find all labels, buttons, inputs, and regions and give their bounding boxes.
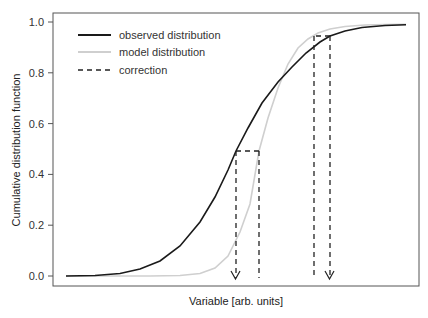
y-tick-label: 0.2 [29,219,44,231]
y-tick-label: 0.4 [29,168,44,180]
legend-label-correction: correction [119,64,167,76]
legend-label-observed: observed distribution [119,29,221,41]
correction-lines [236,36,330,278]
x-axis-label: Variable [arb. units] [189,295,283,307]
y-axis: 0.0 0.2 0.4 0.6 0.8 1.0 [29,16,53,282]
y-tick-label: 0.6 [29,118,44,130]
y-tick-label: 1.0 [29,16,44,28]
legend-label-model: model distribution [119,46,205,58]
cdf-chart: 0.0 0.2 0.4 0.6 0.8 1.0 Cumulative distr… [0,0,428,318]
y-axis-label: Cumulative distribution function [10,74,22,227]
legend: observed distribution model distribution… [78,29,221,76]
y-tick-label: 0.0 [29,270,44,282]
y-tick-label: 0.8 [29,67,44,79]
